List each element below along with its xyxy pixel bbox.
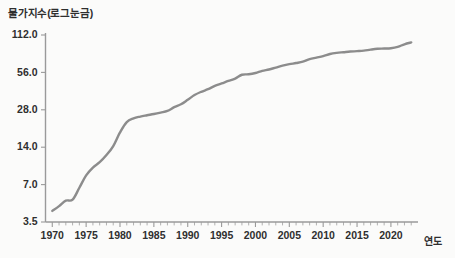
chart-plot-area: 112.056.028.014.07.03.5 1970197519801985… [0,0,455,258]
price-index-log-chart: 물가지수(로그눈금) 112.056.028.014.07.03.5 19701… [0,0,455,258]
x-tick-label: 1995 [210,229,234,241]
y-tick-label: 28.0 [17,103,38,115]
y-tick-label: 3.5 [23,215,38,227]
x-axis-title: 연도 [424,233,442,248]
x-tick-label: 1970 [41,229,65,241]
x-tick-label: 2010 [312,229,336,241]
x-tick-label: 1975 [74,229,98,241]
x-tick-label: 2000 [244,229,268,241]
series-line-price-index [52,42,411,210]
y-tick-label: 56.0 [17,66,38,78]
y-axis-ticks: 112.056.028.014.07.03.5 [12,28,46,227]
x-tick-label: 2015 [345,229,369,241]
x-tick-label: 2005 [278,229,302,241]
series-group [52,42,411,210]
x-tick-label: 1985 [142,229,166,241]
x-tick-label: 2020 [379,229,403,241]
x-tick-label: 1990 [176,229,200,241]
y-tick-label: 112.0 [12,28,38,40]
y-tick-label: 7.0 [23,178,38,190]
x-axis-ticks: 1970197519801985199019952000200520102015… [41,222,412,241]
y-tick-label: 14.0 [17,140,38,152]
axis-lines [46,33,419,222]
x-tick-label: 1980 [108,229,132,241]
